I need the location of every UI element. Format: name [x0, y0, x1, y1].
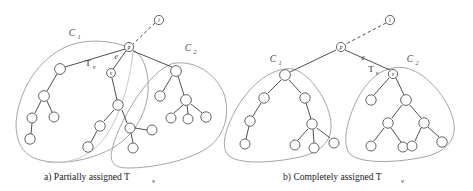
panel-a-subtree-label: T	[85, 58, 91, 68]
panel-a-cluster1-label: C	[69, 28, 76, 38]
panel-b-node-c2[interactable]	[401, 95, 412, 106]
panel-b-caption-subscript: v	[401, 177, 404, 184]
panel-a-edge-v-b1	[112, 78, 117, 100]
panel-b-node-a4[interactable]	[240, 139, 250, 149]
panel-a-node-c4[interactable]	[166, 113, 176, 123]
panel-a-node-b3[interactable]	[125, 123, 135, 133]
panel-a-node-a4[interactable]	[49, 112, 59, 122]
panel-b-node-a7[interactable]	[290, 140, 300, 150]
panel-a-edge-a2-a3	[35, 101, 41, 113]
panel-a-edge-label-e: e	[114, 53, 118, 61]
panel-a-edge-t-p	[133, 23, 155, 44]
panel-a-node-a3[interactable]	[27, 113, 37, 123]
panel-a-edge-b3-b6	[135, 128, 147, 130]
panel-b-node-a5[interactable]	[300, 93, 310, 103]
panel-a-node-a1[interactable]	[55, 64, 66, 75]
panel-b-node-a3[interactable]	[245, 116, 255, 126]
panel-b-edge-c3-c6	[391, 128, 401, 142]
panel-b-edge-c4-c7	[415, 128, 421, 141]
panel-b-node-c1[interactable]	[366, 95, 376, 105]
panel-b: t p v e T v C 1 C 2 b) Completely assign…	[224, 15, 454, 184]
panel-a-cluster2-label: C	[185, 43, 192, 53]
panel-a-node-b6[interactable]	[147, 125, 157, 135]
panel-b-edge-c4-c8	[428, 127, 439, 137]
panel-b-edge-a6-a7	[298, 129, 308, 140]
panel-a-node-c5[interactable]	[183, 114, 193, 124]
panel-b-node-a8[interactable]	[309, 143, 319, 153]
panel-a-edge-a1-a2	[47, 74, 57, 91]
panel-b-subtree-label: T	[368, 64, 374, 74]
panel-b-edge-c2-c4	[410, 105, 421, 118]
panel-b-node-a9[interactable]	[329, 138, 339, 148]
panel-a-edge-b1-b2	[104, 110, 114, 121]
panel-b-node-c6[interactable]	[398, 142, 408, 152]
panel-a-node-b5[interactable]	[128, 143, 138, 153]
panel-a-node-c6[interactable]	[201, 112, 211, 122]
panel-b-cluster2-label: C	[407, 54, 414, 64]
panel-b-edge-a6-a8	[313, 129, 314, 143]
panel-b-edge-c2-c3	[392, 105, 402, 118]
panel-b-edge-a3-a4	[246, 126, 249, 139]
panel-b-node-c4[interactable]	[419, 118, 429, 128]
panel-b-edge-a5-a6	[306, 103, 311, 119]
panel-a-cluster1-outline	[16, 41, 148, 162]
figure-container: t p v e T v C 1 C 2 a) Partially assigne…	[0, 0, 473, 191]
panel-a-node-c3[interactable]	[181, 95, 192, 106]
panel-a-edge-c3-c4	[174, 105, 183, 113]
panel-a-edge-b3-b5	[131, 133, 133, 143]
panel-b-edge-label-e: e	[361, 54, 365, 62]
panel-b-edge-a6-a9	[317, 128, 330, 138]
panel-b-cluster1-label: C	[270, 54, 277, 64]
panel-a-subtree-subscript: v	[93, 63, 96, 70]
panel-b-cluster2-subscript: 2	[415, 59, 419, 66]
panel-b-edge-a1-a2	[268, 80, 281, 93]
panel-a-edge-b2-b4	[91, 131, 97, 142]
panel-b-edge-v-c2	[396, 78, 404, 95]
panel-a: t p v e T v C 1 C 2 a) Partially assigne…	[16, 15, 227, 184]
panel-a-edge-c3-c5	[187, 105, 188, 114]
panel-b-node-a1[interactable]	[280, 70, 291, 81]
panel-a-edge-a2-a4	[47, 101, 52, 112]
panel-b-node-a6[interactable]	[307, 119, 317, 129]
panel-a-edge-c3-c6	[191, 104, 202, 113]
panel-b-edge-a1-a5	[289, 80, 301, 93]
panel-a-cluster1-subscript: 1	[77, 33, 80, 40]
panel-a-edge-c1-c2	[163, 76, 172, 91]
panel-b-node-c5[interactable]	[366, 141, 376, 151]
panel-b-caption: b) Completely assigned T	[283, 171, 382, 183]
panel-a-node-b1[interactable]	[113, 100, 123, 110]
panel-a-edge-p-c1	[133, 51, 172, 67]
panel-a-edge-a3-a5	[31, 123, 32, 134]
panel-b-node-a2[interactable]	[259, 93, 269, 103]
panel-a-edge-c1-c3	[178, 76, 184, 95]
panel-b-subtree-subscript: v	[376, 69, 379, 76]
panel-a-node-b4[interactable]	[83, 142, 93, 152]
panel-b-cluster1-subscript: 1	[278, 59, 281, 66]
panel-b-node-c3[interactable]	[383, 118, 393, 128]
panel-a-caption: a) Partially assigned T	[44, 171, 130, 183]
panel-b-edge-t-p	[346, 23, 386, 44]
panel-a-node-a5[interactable]	[25, 134, 35, 144]
panel-a-node-c1[interactable]	[171, 66, 182, 77]
panel-b-node-c8[interactable]	[437, 137, 447, 147]
panel-b-edge-a2-a3	[253, 103, 261, 116]
panel-b-edge-p-a1	[290, 50, 336, 72]
panel-a-node-p-label: p	[127, 44, 131, 50]
diagram-canvas: t p v e T v C 1 C 2 a) Partially assigne…	[0, 0, 473, 191]
panel-a-caption-subscript: v	[152, 177, 155, 184]
panel-a-node-b2[interactable]	[95, 121, 105, 131]
panel-a-cluster2-subscript: 2	[193, 48, 197, 55]
panel-b-node-c7[interactable]	[407, 141, 417, 151]
panel-a-node-c2[interactable]	[155, 91, 165, 101]
panel-b-edge-v-c1	[374, 78, 389, 95]
panel-a-node-a2[interactable]	[39, 91, 50, 102]
panel-b-node-p-label: p	[339, 44, 343, 50]
panel-b-edge-c3-c5	[374, 128, 384, 141]
